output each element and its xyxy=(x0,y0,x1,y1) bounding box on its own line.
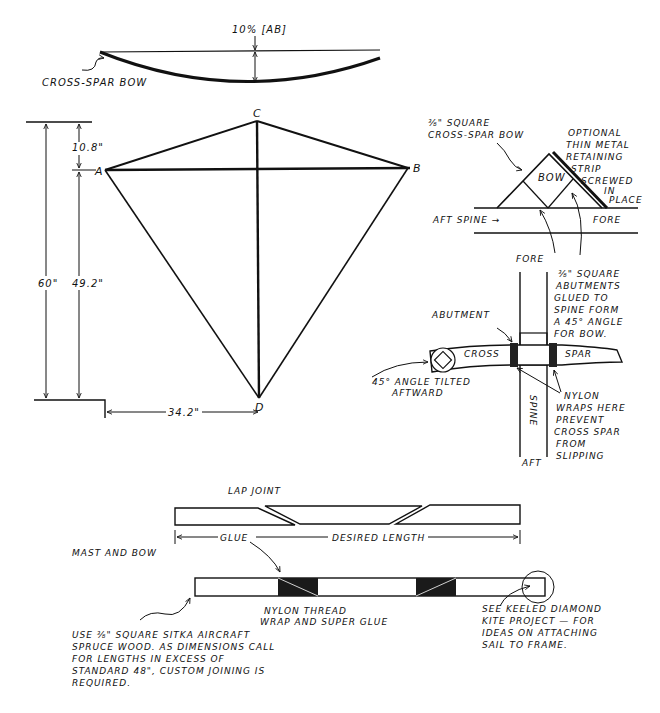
glue-label: GLUE xyxy=(220,533,248,543)
bow-square-label-2: CROSS-SPAR BOW xyxy=(428,130,524,140)
angle-note-leader xyxy=(372,362,428,377)
bow-chord-line xyxy=(100,50,380,52)
spar-label: SPAR xyxy=(565,349,592,359)
mast-title: MAST AND BOW xyxy=(72,548,157,558)
kite-plan-drawing: 10% [AB] CROSS-SPAR BOW C A B D 60" 49.2… xyxy=(0,0,660,713)
detail-spine-label: SPINE xyxy=(528,395,538,426)
abutment-note-5: A 45° ANGLE xyxy=(553,317,623,327)
cross-spar-bow-diagram: 10% [AB] CROSS-SPAR BOW xyxy=(42,24,380,88)
bow-leader-arrow xyxy=(82,58,104,71)
abutment-note-1: ⅜" SQUARE xyxy=(558,269,620,279)
wood-note-leader xyxy=(140,598,190,620)
mast-stick xyxy=(195,578,545,596)
bow-label: BOW xyxy=(538,172,566,183)
dim-34-2-label: 34.2" xyxy=(168,407,200,418)
abutment-label-leader xyxy=(497,328,512,342)
dim-10-8-label: 10.8" xyxy=(72,142,104,153)
nylon-note-5: FROM xyxy=(556,439,586,449)
nylon-note-2: WRAPS HERE xyxy=(556,403,626,413)
spine-c-d xyxy=(257,121,259,398)
dim-60-label: 60" xyxy=(38,278,58,289)
nylon-note-4: CROSS SPAR xyxy=(554,427,621,437)
cross-spar-spine-detail: FORE AFT SPINE CROSS SPAR ABUTMENT ⅜" SQ… xyxy=(372,254,626,468)
dim-49-2-label: 49.2" xyxy=(72,278,104,289)
abutment-note-6: FOR BOW. xyxy=(554,329,608,339)
fore-label: FORE xyxy=(593,215,621,225)
detail-fore-label: FORE xyxy=(516,254,544,264)
bow-name-label: CROSS-SPAR BOW xyxy=(42,77,147,88)
strip-label-5: SCREWED xyxy=(581,176,633,186)
vertex-label-a: A xyxy=(94,165,104,178)
nylon-leader-left xyxy=(517,368,560,393)
desired-length-label: DESIRED LENGTH xyxy=(332,533,425,543)
lap-joint-diagram: LAP JOINT GLUE DESIRED LENGTH xyxy=(175,486,520,572)
wood-note-3: FOR LENGTHS IN EXCESS OF xyxy=(72,654,225,664)
keeled-note-2: KITE PROJECT — FOR xyxy=(482,616,595,626)
nylon-wrap-left xyxy=(510,343,518,367)
abutment-label: ABUTMENT xyxy=(431,310,491,320)
cross-spar-body xyxy=(430,345,622,372)
strip-label-7: PLACE xyxy=(609,195,643,205)
nylon-wrap-right xyxy=(549,343,557,367)
nylon-note-3: PREVENT xyxy=(556,415,605,425)
abutment-left-edge xyxy=(523,181,548,208)
bow-percent-label: 10% [AB] xyxy=(232,24,287,35)
edge-b-d xyxy=(259,168,408,398)
dim-bottom-extension xyxy=(34,400,105,418)
abutment-right-edge xyxy=(548,179,573,208)
kite-outline-diagram: C A B D 60" 49.2" 10.8" 34.2" xyxy=(26,107,422,419)
vertex-label-c: C xyxy=(253,107,262,120)
angle-note-1: 45° ANGLE TILTED xyxy=(372,377,471,387)
cross-label: CROSS xyxy=(464,349,500,359)
thread-note-1: NYLON THREAD xyxy=(264,606,347,616)
nylon-note-6: SLIPPING xyxy=(556,451,605,461)
nylon-leader-right xyxy=(554,370,561,392)
glue-leader xyxy=(250,542,280,572)
strip-label-4: STRIP xyxy=(571,164,602,174)
edge-c-b xyxy=(257,121,408,168)
thread-note-2: WRAP AND SUPER GLUE xyxy=(260,617,388,627)
vertex-label-b: B xyxy=(413,162,422,175)
mast-and-bow-diagram: MAST AND BOW NYLON THREAD WRAP AND SUPER… xyxy=(72,548,602,688)
abutment-leader-2 xyxy=(572,193,581,255)
lap-piece-left xyxy=(175,508,295,525)
keeled-note-3: IDEAS ON ATTACHING xyxy=(482,628,598,638)
detail-aft-label: AFT xyxy=(521,458,542,468)
wood-note-1: USE ⅜" SQUARE SITKA AIRCRAFT xyxy=(72,630,251,640)
wood-note-4: STANDARD 48", CUSTOM JOINING IS xyxy=(72,666,265,676)
abutment-note-4: SPINE FORM xyxy=(554,305,619,315)
bow-joint-detail: BOW ⅜" SQUARE CROSS-SPAR BOW OPTIONAL TH… xyxy=(428,118,643,255)
lap-joint-title: LAP JOINT xyxy=(228,486,282,496)
lap-piece-right xyxy=(396,505,520,524)
abutment-note-2: ABUTMENTS xyxy=(555,281,621,291)
keeled-note-4: SAIL TO FRAME. xyxy=(482,640,568,650)
strip-label-1: OPTIONAL xyxy=(568,128,622,138)
wood-note-2: SPRUCE WOOD. AS DIMENSIONS CALL xyxy=(72,642,275,652)
strip-label-3: RETAINING xyxy=(566,152,624,162)
edge-a-d xyxy=(105,170,259,398)
wood-note-5: REQUIRED. xyxy=(72,678,131,688)
bow-square-label-1: ⅜" SQUARE xyxy=(428,118,490,128)
aft-spine-label: AFT SPINE → xyxy=(432,215,500,225)
nylon-note-1: NYLON xyxy=(564,391,600,401)
keeled-note-1: SEE KEELED DIAMOND xyxy=(482,604,602,614)
abutment-leader-1 xyxy=(540,210,555,253)
angle-note-2: AFTWARD xyxy=(391,388,444,398)
edge-a-c xyxy=(105,121,257,170)
strip-label-2: THIN METAL xyxy=(566,140,630,150)
abutment-note-3: GLUED TO xyxy=(554,293,609,303)
bow-square-leader xyxy=(497,143,522,170)
